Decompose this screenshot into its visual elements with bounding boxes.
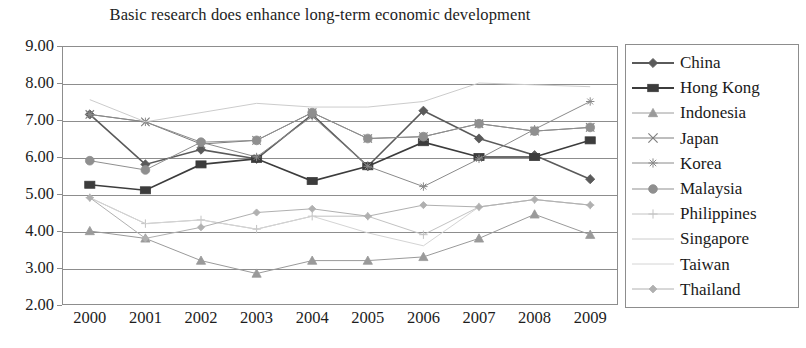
- legend-label: Taiwan: [676, 256, 730, 273]
- legend-label: Korea: [676, 155, 722, 172]
- legend-label: Philippines: [676, 205, 757, 222]
- x-axis-tick-label: 2005: [351, 308, 384, 328]
- series-layer: [62, 46, 618, 305]
- legend-marker-icon: [630, 280, 676, 298]
- y-axis-tick-label: 5.00: [25, 184, 54, 204]
- legend-item-singapore[interactable]: Singapore: [630, 226, 798, 251]
- x-axis-tick-label: 2002: [185, 308, 218, 328]
- legend-marker-icon: [630, 180, 676, 198]
- series-indonesia: [85, 210, 595, 277]
- legend-label: Thailand: [676, 281, 740, 298]
- x-axis-tick-label: 2000: [73, 308, 106, 328]
- y-axis-tick-label: 8.00: [25, 73, 54, 93]
- legend-marker-icon: [630, 54, 676, 72]
- legend-label: China: [676, 54, 721, 71]
- y-axis-tick-label: 9.00: [25, 36, 54, 56]
- series-singapore: [90, 83, 590, 122]
- legend-item-korea[interactable]: Korea: [630, 151, 798, 176]
- legend-item-japan[interactable]: Japan: [630, 126, 798, 151]
- x-axis-labels: 2000200120022003200420052006200720082009: [62, 308, 618, 338]
- x-axis-tick-label: 2009: [574, 308, 607, 328]
- series-philippines: [86, 194, 595, 239]
- legend-label: Indonesia: [676, 104, 746, 121]
- legend-marker-icon: [630, 205, 676, 223]
- legend-item-philippines[interactable]: Philippines: [630, 201, 798, 226]
- legend-item-taiwan[interactable]: Taiwan: [630, 252, 798, 277]
- y-axis-tick-label: 6.00: [25, 147, 54, 167]
- legend-item-china[interactable]: China: [630, 50, 798, 75]
- legend-label: Japan: [676, 130, 719, 147]
- y-axis-tick-label: 3.00: [25, 258, 54, 278]
- series-china: [85, 106, 595, 184]
- x-axis-tick-label: 2004: [296, 308, 329, 328]
- legend-marker-icon: [630, 79, 676, 97]
- series-taiwan: [90, 198, 590, 246]
- x-axis-tick-label: 2003: [240, 308, 273, 328]
- series-korea: [86, 97, 595, 191]
- legend-item-indonesia[interactable]: Indonesia: [630, 100, 798, 125]
- series-hong-kong: [85, 137, 596, 194]
- legend-item-hong-kong[interactable]: Hong Kong: [630, 75, 798, 100]
- legend-marker-icon: [630, 129, 676, 147]
- legend-item-malaysia[interactable]: Malaysia: [630, 176, 798, 201]
- legend-marker-icon: [630, 255, 676, 273]
- x-axis-tick-label: 2008: [518, 308, 551, 328]
- legend-marker-icon: [630, 104, 676, 122]
- y-axis-tick-mark: [57, 305, 62, 306]
- chart-legend: ChinaHong KongIndonesiaJapanKoreaMalaysi…: [625, 44, 799, 308]
- legend-item-thailand[interactable]: Thailand: [630, 277, 798, 302]
- chart-container: Basic research does enhance long-term ec…: [0, 0, 806, 348]
- legend-label: Malaysia: [676, 180, 742, 197]
- y-axis-tick-label: 2.00: [25, 295, 54, 315]
- series-thailand: [86, 194, 594, 242]
- y-axis-tick-label: 7.00: [25, 110, 54, 130]
- y-axis-tick-label: 4.00: [25, 221, 54, 241]
- legend-label: Singapore: [676, 230, 749, 247]
- legend-marker-icon: [630, 230, 676, 248]
- legend-label: Hong Kong: [676, 79, 760, 96]
- x-axis-tick-label: 2006: [407, 308, 440, 328]
- x-axis-tick-label: 2001: [129, 308, 162, 328]
- chart-title: Basic research does enhance long-term ec…: [0, 5, 640, 25]
- x-axis-tick-label: 2007: [463, 308, 496, 328]
- legend-marker-icon: [630, 154, 676, 172]
